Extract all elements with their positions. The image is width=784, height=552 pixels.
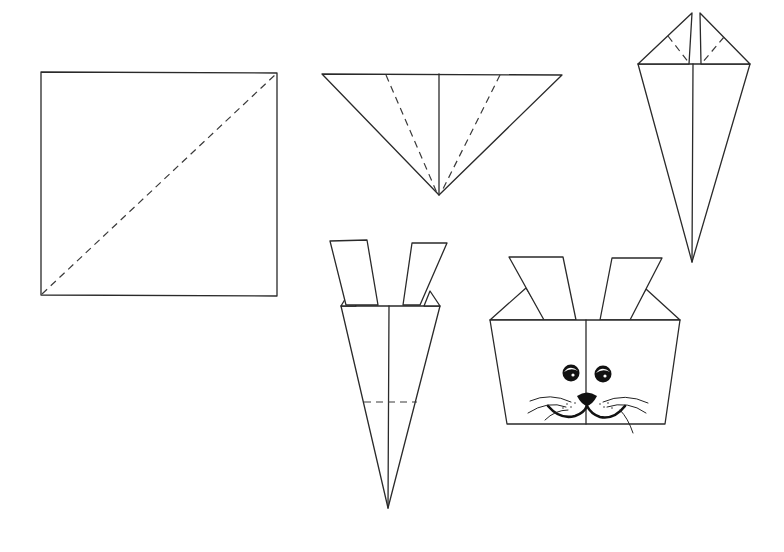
cone-body <box>341 306 440 508</box>
step-4-cone <box>330 240 447 508</box>
triangle-paper <box>322 74 562 195</box>
kite-body <box>638 64 750 262</box>
step-1-square <box>41 72 277 296</box>
step-5-bunny <box>490 257 680 433</box>
origami-diagram <box>0 0 784 552</box>
right-small-flap <box>424 291 440 306</box>
step-3-kite <box>638 13 750 262</box>
step-2-triangle <box>322 74 562 195</box>
right-eye <box>595 366 612 383</box>
diagram-canvas <box>0 0 784 552</box>
left-eye <box>563 365 580 382</box>
left-ear <box>330 240 378 305</box>
right-ear <box>403 243 447 305</box>
